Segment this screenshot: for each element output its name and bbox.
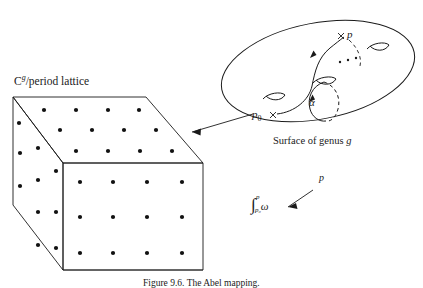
lattice-dots-left-face	[17, 121, 58, 250]
integral-upper-limit: p	[256, 194, 260, 201]
abel-integral-arrow	[288, 190, 313, 209]
point-label-p0: p0	[252, 109, 262, 123]
middle-handle	[313, 77, 336, 84]
genus-surface-outline	[213, 5, 423, 137]
handle-ellipsis	[339, 57, 357, 63]
figure-abel-mapping: Cg/period lattice Surface of genus g p p…	[0, 0, 423, 288]
left-handle	[263, 93, 285, 100]
lattice-box	[13, 97, 203, 270]
abel-target-label: p	[319, 173, 324, 183]
integral-differential-form: ω	[261, 200, 269, 212]
alpha-loop-label: α	[309, 97, 315, 108]
lattice-dots-top-face	[42, 108, 174, 153]
alpha-loop-dashed	[324, 82, 339, 121]
right-handle	[367, 43, 389, 50]
genus-surface-caption: Surface of genus g	[273, 136, 351, 147]
lattice-dots-front-face	[78, 180, 184, 255]
figure-caption: Figure 9.6. The Abel mapping.	[143, 279, 260, 288]
point-label-p: p	[347, 29, 353, 40]
integral-lower-limit: p₀	[255, 207, 261, 214]
point-label-p0-subscript: 0	[258, 114, 262, 123]
cross-marker-p	[338, 33, 344, 39]
figure-drawing	[0, 0, 423, 288]
genus-caption-prefix: Surface of genus	[273, 135, 346, 146]
lattice-label: Cg/period lattice	[14, 74, 89, 87]
integral-body: ∫pp₀	[251, 196, 256, 213]
lattice-label-rest: /period lattice	[26, 75, 90, 87]
abel-integral-expression: ∫pp₀ω	[251, 196, 268, 213]
dashed-guide-line	[349, 40, 361, 66]
abel-mapping-arrow	[192, 114, 253, 136]
box-top-face-edge	[13, 97, 203, 163]
cross-marker-p0	[270, 112, 276, 118]
lattice-label-main: C	[14, 75, 22, 87]
genus-caption-variable: g	[346, 135, 351, 146]
